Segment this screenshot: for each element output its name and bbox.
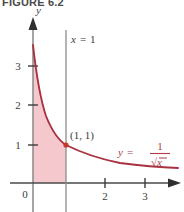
point-marker-1-1 [63,142,68,147]
svg-text:y=: y= [117,146,133,158]
y-tick-label-1: 1 [15,139,21,151]
svg-text:x=1: x=1 [70,33,96,45]
x-tick-label-2: 2 [102,190,108,202]
x-tick-label-0: 0 [22,188,28,200]
vertical-line-annotation-label: x=1 [70,33,96,45]
vline-label-val: 1 [90,33,96,45]
curve-label-eq: = [127,146,133,158]
point-annotation-label: (1, 1) [70,129,94,142]
vline-label-eq: = [80,33,86,45]
curve-label-lhs: y [117,146,123,158]
y-axis-label: y [35,4,41,16]
y-axis-arrow [29,17,38,30]
x-tick-label-3: 3 [142,190,148,202]
figure-container: FIGURE 6.2 y 3 2 1 0 2 3 [0,0,184,212]
figure-plot: y 3 2 1 0 2 3 x=1 (1, 1) y= 1 √x [0,0,184,212]
vline-label-var: x [70,33,76,45]
y-tick-label-2: 2 [15,99,21,111]
x-axis-arrow [168,179,181,188]
y-tick-label-3: 3 [15,60,21,72]
curve-label-numerator: 1 [157,140,163,152]
